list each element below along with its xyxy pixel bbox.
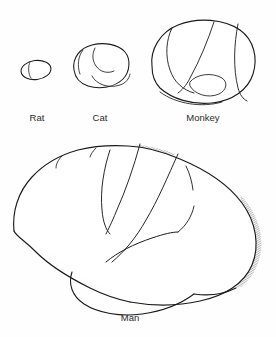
- monkey-label: Monkey: [186, 112, 220, 123]
- cat-label: Cat: [93, 112, 108, 123]
- monkey-brain-outline: [152, 20, 255, 103]
- comparative-brain-diagram: Rat Cat Monkey: [0, 0, 276, 337]
- man-label: Man: [121, 312, 139, 323]
- figure-canvas: Rat Cat Monkey: [0, 0, 276, 337]
- cat-brain-outline: [74, 44, 129, 88]
- rat-label: Rat: [30, 112, 45, 123]
